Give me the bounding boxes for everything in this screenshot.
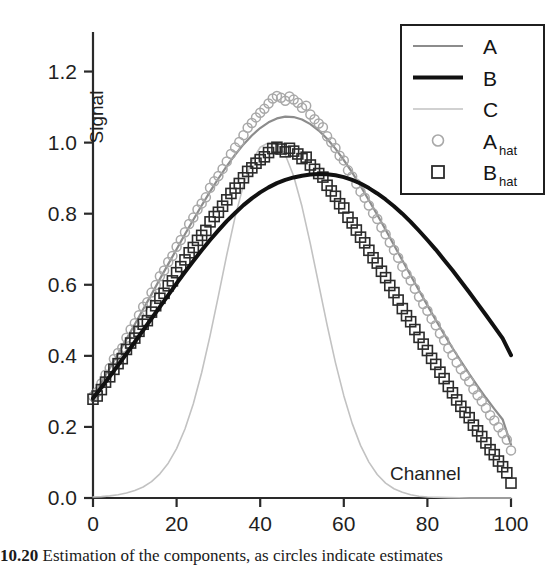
caption-number: 10.20 <box>0 546 38 565</box>
legend-label: C <box>483 98 498 121</box>
x-tick-label: 60 <box>332 512 355 535</box>
y-axis-title-text: Signal <box>86 91 107 144</box>
chart-legend: ABCAhatBhat <box>401 25 544 194</box>
y-tick-label: 0.8 <box>48 202 77 225</box>
y-tick-label: 1.0 <box>48 131 77 154</box>
y-axis-title: Signal <box>86 91 107 144</box>
x-tick-label: 0 <box>87 512 99 535</box>
x-tick-label: 40 <box>249 512 272 535</box>
x-tick-label: 20 <box>165 512 188 535</box>
legend-label-subscript: hat <box>499 143 517 158</box>
y-tick-label: 1.2 <box>48 60 77 83</box>
legend-label: B <box>483 161 497 184</box>
y-tick-label: 0.6 <box>48 273 77 296</box>
x-tick-label: 100 <box>493 512 528 535</box>
figure-caption: 10.20 Estimation of the components, as c… <box>0 546 550 566</box>
legend-label: A <box>483 130 497 153</box>
legend-label-subscript: hat <box>499 174 517 189</box>
legend-label: B <box>483 67 497 90</box>
y-tick-label: 0.0 <box>48 486 77 509</box>
y-tick-label: 0.2 <box>48 415 77 438</box>
caption-text: Estimation of the components, as circles… <box>43 546 443 565</box>
y-tick-label: 0.4 <box>48 344 78 367</box>
x-axis-title-text: Channel <box>390 463 461 484</box>
legend-label: A <box>483 35 497 58</box>
x-tick-label: 80 <box>416 512 439 535</box>
